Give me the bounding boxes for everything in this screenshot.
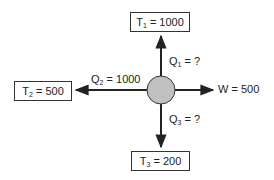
t2-value: = 500 bbox=[36, 85, 64, 97]
q2-sub: 2 bbox=[100, 79, 104, 86]
engine-circle bbox=[147, 76, 175, 104]
q1-value: = ? bbox=[185, 55, 201, 67]
reservoir-t2: T2 = 500 bbox=[14, 81, 72, 101]
label-q2: Q2 = 1000 bbox=[91, 73, 140, 86]
t3-value: = 200 bbox=[153, 155, 181, 167]
t3-sub: 3 bbox=[146, 161, 150, 168]
q3-value: = ? bbox=[185, 113, 201, 125]
q3-sub: 3 bbox=[178, 119, 182, 126]
label-q1: Q1 = ? bbox=[169, 55, 200, 68]
t1-symbol: T bbox=[136, 16, 143, 28]
q3-symbol: Q bbox=[169, 113, 178, 125]
label-w: W = 500 bbox=[218, 83, 259, 95]
t1-sub: 1 bbox=[143, 22, 147, 29]
reservoir-t3: T3 = 200 bbox=[131, 151, 190, 171]
t2-sub: 2 bbox=[29, 91, 33, 98]
reservoir-t1: T1 = 1000 bbox=[130, 12, 190, 32]
t1-value: = 1000 bbox=[150, 16, 184, 28]
q1-symbol: Q bbox=[169, 55, 178, 67]
q1-sub: 1 bbox=[178, 61, 182, 68]
t2-symbol: T bbox=[22, 85, 29, 97]
q2-value: = 1000 bbox=[107, 73, 141, 85]
label-q3: Q3 = ? bbox=[169, 113, 200, 126]
q2-symbol: Q bbox=[91, 73, 100, 85]
